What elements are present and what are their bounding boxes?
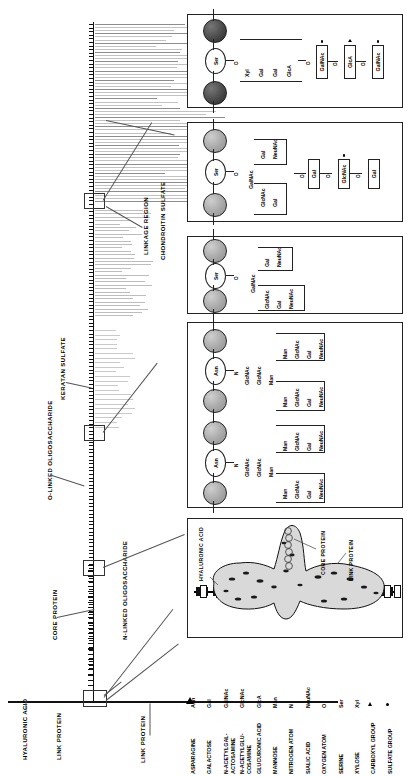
gag-chain xyxy=(95,227,136,228)
n-linked-core-0: GlcNAc xyxy=(244,458,250,477)
o-bond-label: O xyxy=(326,174,331,178)
backbone-link xyxy=(213,71,214,83)
sugar-tick xyxy=(89,391,93,392)
core-protein-bead xyxy=(203,329,227,353)
linkage-sugar-glca: GlcA xyxy=(286,65,292,77)
panel-label-link-protein: LINK PROTEIN xyxy=(348,540,354,581)
gag-chain xyxy=(95,71,193,72)
o-bond-label: O xyxy=(356,174,361,178)
sugar-tick xyxy=(89,226,93,227)
gag-chain xyxy=(95,86,171,87)
sugar-tick xyxy=(88,617,93,618)
sugar-tick xyxy=(88,581,93,582)
backbone-link xyxy=(213,149,214,161)
gag-chain xyxy=(95,348,117,349)
sugar-tick xyxy=(89,661,93,662)
sugar-tick xyxy=(89,258,93,259)
sugar-tick xyxy=(89,312,93,313)
gag-chain xyxy=(95,176,197,177)
backbone-link xyxy=(213,319,214,331)
legend-name: ACTOSAMINE xyxy=(230,738,236,774)
gag-chain xyxy=(95,117,225,118)
sugar-tick xyxy=(89,348,93,349)
gag-chain xyxy=(95,173,165,174)
sugar-tick xyxy=(89,294,93,295)
backbone-link xyxy=(213,229,214,240)
gag-chain xyxy=(95,330,116,331)
sugar-tick xyxy=(89,604,93,605)
sugar-tick xyxy=(89,524,93,525)
core-protein-bead xyxy=(203,289,227,313)
sugar-tick xyxy=(89,154,93,155)
sugar-tick xyxy=(89,442,93,443)
sugar-tick xyxy=(88,669,93,670)
sugar-tick xyxy=(89,24,93,25)
sugar-tick xyxy=(89,182,93,183)
legend-abbr-n: N xyxy=(288,704,294,708)
gag-chain xyxy=(95,362,120,363)
sugar-tick xyxy=(89,546,93,547)
bond-line xyxy=(298,60,306,61)
label-link-protein-2: LINK PROTEIN xyxy=(140,716,146,763)
sugar-tick xyxy=(89,420,93,421)
gag-chain xyxy=(95,49,182,50)
asparagine-label: Asn xyxy=(213,366,219,375)
gag-chain xyxy=(95,64,191,65)
backbone-link xyxy=(213,213,214,225)
linkage-bracket-bottom xyxy=(240,81,302,82)
keratan-sulfate-panel: Ser O GalNAcGalNeuNAcGlcNAcGal GalOGlcNA… xyxy=(187,122,403,222)
sugar-box-label: Gal xyxy=(311,170,317,178)
o-linked-lower-bracket xyxy=(258,285,305,311)
gag-chain xyxy=(95,195,196,196)
sugar-tick xyxy=(89,344,93,345)
sugar-tick xyxy=(89,190,93,191)
backbone-link xyxy=(213,9,214,21)
sugar-tick xyxy=(88,648,93,649)
sugar-tick xyxy=(89,366,93,367)
serine-label: Ser xyxy=(213,272,219,280)
gag-chain xyxy=(95,305,140,306)
backbone-link xyxy=(213,182,214,194)
sugar-tick xyxy=(88,680,93,681)
keratan-upper-bracket xyxy=(254,139,287,165)
sugar-tick xyxy=(89,532,93,533)
chondroitin-unit-1: GlcA xyxy=(344,45,356,79)
sugar-tick xyxy=(89,31,93,32)
gag-chain xyxy=(95,358,135,359)
connector-n-linked xyxy=(104,609,174,698)
sugar-tick xyxy=(89,492,93,493)
asparagine-residue: Asn xyxy=(205,449,226,477)
proteoglycan-aggregate-panel: HYALURONIC ACID CORE PROTEIN LINK PROTEI… xyxy=(187,518,403,638)
gag-chain xyxy=(95,46,156,47)
sugar-tick xyxy=(89,96,93,97)
n-bond-label: N xyxy=(234,372,239,375)
gag-chain xyxy=(95,371,116,372)
zoom-box-chondroitin xyxy=(84,193,105,209)
sugar-tick xyxy=(89,247,93,248)
sugar-tick xyxy=(89,150,93,151)
sugar-tick xyxy=(89,56,93,57)
sugar-tick xyxy=(89,409,93,410)
n-linked-lower-bracket xyxy=(276,381,325,411)
leader-keratan-sulfate xyxy=(66,382,92,388)
leader-link-protein-2 xyxy=(150,704,151,736)
sugar-tick xyxy=(89,280,93,281)
gag-chain xyxy=(95,230,129,231)
sulfate-group-icon xyxy=(343,154,346,157)
gag-chain xyxy=(95,381,128,382)
sugar-tick xyxy=(89,164,93,165)
gag-chain xyxy=(95,344,117,345)
gag-chain xyxy=(95,417,122,418)
sugar-tick xyxy=(89,370,93,371)
sugar-tick xyxy=(88,622,93,623)
sugar-tick xyxy=(89,636,93,637)
zoom-box-o-linked xyxy=(83,560,105,576)
gag-chain xyxy=(95,335,120,336)
serine-label: Ser xyxy=(213,168,219,176)
sugar-tick xyxy=(89,362,93,363)
sugar-tick xyxy=(89,377,93,378)
gag-chain xyxy=(95,251,131,252)
sugar-tick xyxy=(88,659,93,660)
gag-chain xyxy=(95,52,180,53)
sugar-tick xyxy=(89,539,93,540)
